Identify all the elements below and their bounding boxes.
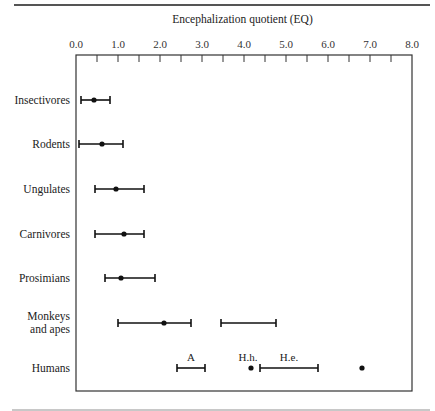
human-annotations: A H.h. H.e.: [187, 351, 298, 363]
range-prosimians: [105, 274, 155, 282]
svg-text:and apes: and apes: [30, 323, 70, 336]
svg-text:2.0: 2.0: [153, 38, 167, 50]
svg-text:4.0: 4.0: [237, 38, 251, 50]
range-carnivores: [95, 230, 144, 238]
annotation-hh: H.h.: [239, 351, 258, 363]
svg-text:3.0: 3.0: [195, 38, 209, 50]
svg-text:Prosimians: Prosimians: [19, 272, 71, 284]
x-tick-labels: 0.0 1.0 2.0 3.0 4.0 5.0 6.0 7.0 8.0: [69, 38, 419, 50]
plot-frame: [76, 55, 412, 391]
svg-text:6.0: 6.0: [321, 38, 335, 50]
x-ticks: [97, 55, 391, 62]
svg-text:5.0: 5.0: [279, 38, 293, 50]
svg-text:Rodents: Rodents: [32, 138, 70, 150]
svg-text:Humans: Humans: [32, 362, 71, 374]
svg-text:1.0: 1.0: [111, 38, 125, 50]
range-insectivores: [81, 96, 110, 104]
range-rodents: [79, 140, 123, 148]
chart-plot: 0.0 1.0 2.0 3.0 4.0 5.0 6.0 7.0 8.0 Inse…: [0, 0, 435, 411]
range-ungulates: [95, 185, 144, 193]
svg-text:8.0: 8.0: [405, 38, 419, 50]
svg-text:0.0: 0.0: [69, 38, 83, 50]
annotation-a: A: [187, 351, 195, 363]
range-monkeys-and-apes: [118, 319, 276, 327]
range-humans: [177, 364, 365, 372]
annotation-he: H.e.: [280, 351, 299, 363]
category-labels: Insectivores Rodents Ungulates Carnivore…: [14, 94, 70, 374]
svg-text:Monkeys: Monkeys: [27, 310, 70, 323]
svg-text:Insectivores: Insectivores: [14, 94, 70, 106]
svg-text:Ungulates: Ungulates: [23, 183, 70, 196]
svg-text:7.0: 7.0: [363, 38, 377, 50]
svg-text:Carnivores: Carnivores: [20, 228, 71, 240]
